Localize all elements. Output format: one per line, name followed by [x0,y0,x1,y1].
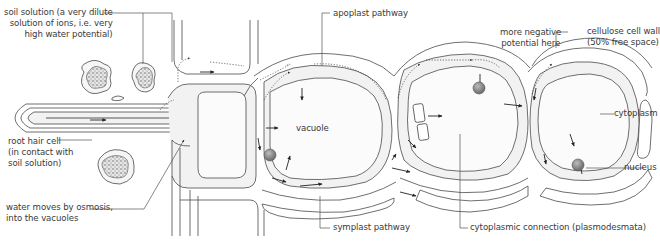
label-osmosis: water moves by osmosis, into the vacuole… [6,202,113,224]
label-root-hair-cell: root hair cell (in contact with soil sol… [8,136,73,169]
label-soil-solution: soil solution (a very dilute solution of… [4,7,113,40]
label-symplast-pathway: symplast pathway [333,222,410,233]
epidermal-cell [168,20,264,236]
label-cytoplasm: cytoplasm [614,108,658,119]
label-apoplast-pathway: apoplast pathway [333,8,408,19]
label-more-negative-potential: more negative potential here [500,27,561,49]
label-plasmodesmata: cytoplasmic connection (plasmodesmata) [470,222,646,233]
root-water-uptake-diagram: soil solution (a very dilute solution of… [0,0,660,242]
label-nucleus: nucleus [624,162,657,173]
label-vacuole: vacuole [296,123,329,134]
cortex-cell-3 [528,38,652,205]
label-cellulose-cell-wall: cellulose cell wall (50% free space) [587,26,660,48]
cortex-cell-1 [244,53,396,219]
cortex-cell-2 [394,42,530,212]
